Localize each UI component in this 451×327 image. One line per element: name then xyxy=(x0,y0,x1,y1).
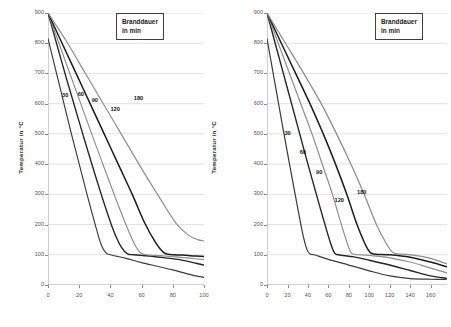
y-tick-label: 400 xyxy=(241,160,263,166)
curve-label-60: 60 xyxy=(300,149,306,155)
plot-area-right xyxy=(267,13,447,285)
x-tick-label: 60 xyxy=(130,292,154,298)
series-line-30 xyxy=(267,39,447,280)
plot-svg-right xyxy=(267,13,447,285)
legend-line-2-left: in min xyxy=(122,26,158,35)
plot-area-left xyxy=(48,13,204,285)
y-tick-mark xyxy=(264,225,267,226)
series-line-30 xyxy=(48,39,204,278)
y-tick-label: 700 xyxy=(22,69,44,75)
y-tick-mark xyxy=(45,43,48,44)
legend-box-right: Branddauer in min xyxy=(375,13,423,40)
curve-label-30: 30 xyxy=(284,130,290,136)
legend-line-1-right: Branddauer xyxy=(381,17,417,26)
y-tick-mark xyxy=(264,194,267,195)
curve-label-180: 180 xyxy=(134,95,144,101)
curve-label-120: 120 xyxy=(335,197,345,203)
y-axis-title-left: Temperatur in °C xyxy=(17,12,24,284)
chart-panel-right: Temperatur in °C Branddauer in min 01002… xyxy=(225,0,450,327)
x-tick-mark xyxy=(204,285,205,288)
y-tick-mark xyxy=(45,13,48,14)
y-tick-label: 100 xyxy=(241,251,263,257)
x-tick-mark xyxy=(410,285,411,288)
x-tick-label: 20 xyxy=(67,292,91,298)
x-tick-mark xyxy=(79,285,80,288)
y-tick-mark xyxy=(264,43,267,44)
y-tick-label: 300 xyxy=(22,190,44,196)
y-tick-label: 800 xyxy=(22,39,44,45)
y-tick-label: 600 xyxy=(241,100,263,106)
x-tick-mark xyxy=(328,285,329,288)
legend-box-left: Branddauer in min xyxy=(116,13,164,40)
y-tick-mark xyxy=(264,255,267,256)
series-line-60 xyxy=(48,13,204,265)
x-tick-mark xyxy=(308,285,309,288)
y-tick-label: 300 xyxy=(241,190,263,196)
curve-label-180: 180 xyxy=(357,189,367,195)
y-tick-mark xyxy=(264,13,267,14)
y-tick-label: 900 xyxy=(241,9,263,15)
y-tick-mark xyxy=(264,104,267,105)
x-tick-mark xyxy=(390,285,391,288)
curve-label-30: 30 xyxy=(62,92,68,98)
x-tick-mark xyxy=(110,285,111,288)
curve-label-120: 120 xyxy=(110,106,120,112)
x-tick-mark xyxy=(288,285,289,288)
y-tick-label: 900 xyxy=(22,9,44,15)
y-tick-mark xyxy=(45,134,48,135)
dual-line-chart-figure: Temperatur in °C Branddauer in min 01002… xyxy=(0,0,451,327)
series-line-120 xyxy=(267,13,447,267)
y-tick-label: 0 xyxy=(241,281,263,287)
legend-line-2-right: in min xyxy=(381,26,417,35)
x-tick-label: 100 xyxy=(192,292,216,298)
y-tick-label: 700 xyxy=(241,69,263,75)
x-tick-mark xyxy=(48,285,49,288)
series-line-60 xyxy=(267,13,447,278)
y-tick-label: 600 xyxy=(22,100,44,106)
x-tick-label: 40 xyxy=(98,292,122,298)
chart-panel-left: Temperatur in °C Branddauer in min 01002… xyxy=(0,0,225,327)
y-tick-mark xyxy=(45,225,48,226)
y-axis-title-right: Temperatur in °C xyxy=(210,12,217,284)
legend-line-1-left: Branddauer xyxy=(122,17,158,26)
plot-svg-left xyxy=(48,13,204,285)
y-tick-mark xyxy=(264,73,267,74)
curve-label-60: 60 xyxy=(78,91,84,97)
y-tick-label: 400 xyxy=(22,160,44,166)
series-line-90 xyxy=(267,13,447,273)
x-tick-mark xyxy=(369,285,370,288)
series-line-180 xyxy=(48,13,204,241)
x-tick-mark xyxy=(267,285,268,288)
y-tick-label: 800 xyxy=(241,39,263,45)
y-tick-label: 0 xyxy=(22,281,44,287)
y-tick-label: 200 xyxy=(22,221,44,227)
y-tick-label: 200 xyxy=(241,221,263,227)
y-tick-mark xyxy=(45,194,48,195)
x-tick-label: 0 xyxy=(36,292,60,298)
y-tick-label: 500 xyxy=(22,130,44,136)
x-tick-mark xyxy=(142,285,143,288)
y-tick-mark xyxy=(45,164,48,165)
y-tick-label: 500 xyxy=(241,130,263,136)
x-tick-label: 160 xyxy=(419,292,443,298)
x-tick-label: 80 xyxy=(161,292,185,298)
curve-label-90: 90 xyxy=(316,169,322,175)
y-tick-label: 100 xyxy=(22,251,44,257)
y-tick-mark xyxy=(45,104,48,105)
y-tick-mark xyxy=(264,134,267,135)
y-tick-mark xyxy=(45,255,48,256)
x-tick-mark xyxy=(431,285,432,288)
x-tick-mark xyxy=(349,285,350,288)
y-tick-mark xyxy=(264,164,267,165)
curve-label-90: 90 xyxy=(92,97,98,103)
y-tick-mark xyxy=(45,73,48,74)
x-tick-mark xyxy=(173,285,174,288)
